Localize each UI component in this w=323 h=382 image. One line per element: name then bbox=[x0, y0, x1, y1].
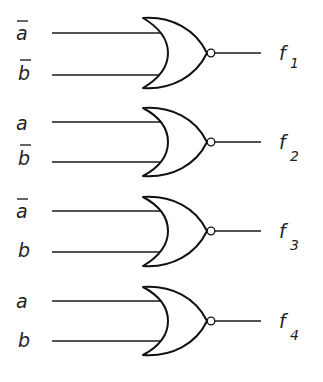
input-label-a: a bbox=[16, 200, 28, 222]
output-label: f bbox=[279, 310, 289, 332]
output-subscript: 2 bbox=[290, 148, 299, 164]
nor-gate-body-icon bbox=[143, 287, 207, 355]
input-label-a: a bbox=[16, 112, 28, 134]
input-label-a: a bbox=[16, 22, 28, 44]
nor-gate-body-icon bbox=[143, 197, 207, 266]
output-label: f bbox=[279, 131, 289, 153]
output-label: f bbox=[279, 42, 289, 64]
nor-gate-body-icon bbox=[143, 108, 207, 176]
nor-gate-2: a b f 2 bbox=[16, 108, 299, 176]
nor-gate-3: a b f 3 bbox=[16, 197, 299, 266]
nor-gate-body-icon bbox=[143, 18, 207, 88]
output-label: f bbox=[279, 220, 289, 242]
input-label-b: b bbox=[18, 239, 30, 261]
nor-gate-diagram: a b f 1 a b f 2 a b f 3 a b bbox=[0, 0, 323, 382]
output-subscript: 3 bbox=[290, 237, 299, 253]
inversion-bubble-icon bbox=[207, 138, 215, 146]
inversion-bubble-icon bbox=[207, 227, 215, 235]
input-label-b: b bbox=[18, 62, 30, 84]
inversion-bubble-icon bbox=[207, 49, 215, 57]
input-label-b: b bbox=[18, 147, 30, 169]
nor-gate-4: a b f 4 bbox=[16, 287, 299, 355]
output-subscript: 4 bbox=[290, 327, 299, 343]
input-label-b: b bbox=[18, 329, 30, 351]
inversion-bubble-icon bbox=[207, 317, 215, 325]
input-label-a: a bbox=[16, 290, 28, 312]
nor-gate-1: a b f 1 bbox=[16, 18, 299, 88]
output-subscript: 1 bbox=[290, 55, 299, 71]
